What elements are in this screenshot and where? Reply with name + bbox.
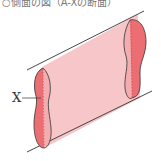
right-end-cap (130, 20, 146, 98)
label-x: X (12, 90, 21, 105)
tube-diagram (0, 0, 161, 161)
